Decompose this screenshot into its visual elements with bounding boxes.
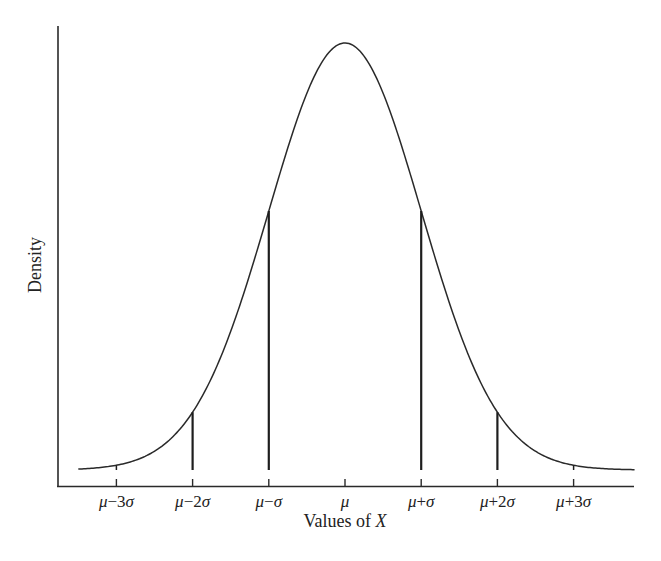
x-tick-label: μ−2σ	[174, 492, 211, 511]
x-axis-title-prefix: Values of	[304, 511, 376, 531]
x-axis-title: Values of X	[304, 511, 388, 531]
x-tick-label: μ+3σ	[555, 492, 592, 511]
x-tick-label: μ−3σ	[98, 492, 135, 511]
sigma-vertical-lines	[116, 211, 573, 470]
x-tick-label: μ+σ	[407, 492, 435, 511]
normal-distribution-chart: μ−3σμ−2σμ−σμμ+σμ+2σμ+3σ Density Values o…	[0, 0, 661, 561]
x-tick-label: μ	[340, 492, 350, 511]
x-tick-label: μ+2σ	[479, 492, 516, 511]
x-axis-title-variable: X	[374, 511, 387, 531]
density-curve	[78, 43, 634, 470]
y-axis-title: Density	[25, 237, 45, 293]
x-axis-tick-labels: μ−3σμ−2σμ−σμμ+σμ+2σμ+3σ	[98, 492, 592, 511]
x-axis-ticks	[116, 479, 573, 486]
x-tick-label: μ−σ	[255, 492, 283, 511]
